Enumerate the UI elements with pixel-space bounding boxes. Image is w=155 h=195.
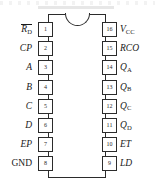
pin-pad-16: 16 xyxy=(102,22,117,37)
pin-pad-2: 2 xyxy=(38,41,53,56)
pin-pad-9: 9 xyxy=(102,156,117,171)
ic-package-body xyxy=(48,14,106,178)
pin-label-1: RD xyxy=(21,22,32,37)
pin-pad-8: 8 xyxy=(38,156,53,171)
pin-label-7: EP xyxy=(20,137,32,152)
ic-pinout-diagram: 1RD2CP3A4B5C6D7EP8GND 16VCC15RCO14QA13QB… xyxy=(0,0,155,195)
pin-pad-3: 3 xyxy=(38,60,53,75)
pin-label-2: CP xyxy=(20,41,32,56)
pin-label-10: ET xyxy=(120,137,131,152)
pin-label-6: D xyxy=(25,118,32,133)
pin-pad-11: 11 xyxy=(102,118,117,133)
pin-pad-15: 15 xyxy=(102,41,117,56)
pin-pad-5: 5 xyxy=(38,99,53,114)
pin-label-8: GND xyxy=(11,156,32,171)
pin-pad-14: 14 xyxy=(102,60,117,75)
pin-label-12: QC xyxy=(120,99,131,114)
pin-label-16: VCC xyxy=(120,22,135,37)
scan-noise-artifact-2 xyxy=(38,6,114,9)
pin-label-14: QA xyxy=(120,60,132,75)
pin-label-15: RCO xyxy=(120,41,139,56)
pin-label-4: B xyxy=(26,80,32,95)
pin-label-13: QB xyxy=(120,80,131,95)
pin-label-3: A xyxy=(26,60,32,75)
pin-pad-10: 10 xyxy=(102,137,117,152)
pin-pad-1: 1 xyxy=(38,22,53,37)
pin-pad-12: 12 xyxy=(102,99,117,114)
pin-pad-6: 6 xyxy=(38,118,53,133)
pin-pad-4: 4 xyxy=(38,80,53,95)
pin-pad-13: 13 xyxy=(102,80,117,95)
scan-noise-artifact xyxy=(0,1,155,5)
pin-pad-7: 7 xyxy=(38,137,53,152)
pin-label-5: C xyxy=(26,99,32,114)
pin-label-9: LD xyxy=(120,156,132,171)
pin-label-11: QD xyxy=(120,118,132,133)
